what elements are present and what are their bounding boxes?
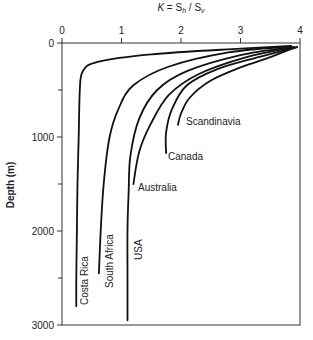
y-tick-label: 0 — [48, 38, 54, 49]
y-tick-label: 2000 — [32, 226, 55, 237]
x-tick-label: 0 — [59, 25, 65, 36]
label-costa-rica: Costa Rica — [79, 256, 90, 305]
label-south-africa: South Africa — [104, 234, 115, 288]
x-tick-label: 3 — [238, 25, 244, 36]
y-tick-label: 1000 — [32, 132, 55, 143]
x-tick-label: 4 — [297, 25, 303, 36]
depth-vs-k-chart: K = Sh / Sv Depth (m) 012340100020003000… — [0, 0, 313, 340]
y-axis-title: Depth (m) — [5, 162, 16, 209]
label-usa: USA — [133, 239, 144, 260]
label-scandinavia: Scandinavia — [186, 116, 241, 127]
axis-ticks: 012340100020003000 — [32, 25, 303, 331]
curve-canada — [166, 47, 297, 153]
y-tick-label: 3000 — [32, 320, 55, 331]
label-canada: Canada — [168, 151, 203, 162]
x-tick-label: 1 — [119, 25, 125, 36]
x-axis-title: K = Sh / Sv — [157, 2, 205, 14]
label-australia: Australia — [138, 182, 177, 193]
series-labels: Costa RicaSouth AfricaUSAAustraliaCanada… — [79, 116, 241, 305]
x-tick-label: 2 — [178, 25, 184, 36]
